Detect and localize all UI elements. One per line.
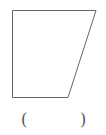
answer-paren-close: )	[80, 112, 86, 128]
answer-paren-open: (	[21, 112, 27, 128]
answer-blank[interactable]	[30, 112, 78, 130]
trapezoid-shape	[13, 11, 97, 98]
